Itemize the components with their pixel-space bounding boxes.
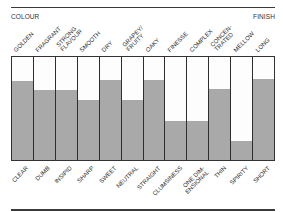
top-label: GOLDEN xyxy=(13,31,35,53)
top-label: COMPLEX xyxy=(189,28,214,53)
bar-column xyxy=(55,57,77,160)
bar-fill xyxy=(253,79,274,160)
bar-fill xyxy=(56,90,77,160)
bottom-label: SHORT xyxy=(252,165,271,184)
colour-header: COLOUR xyxy=(11,13,39,20)
bar-fill xyxy=(78,100,99,160)
bar-fill xyxy=(100,80,121,160)
bar-column xyxy=(186,57,208,160)
bottom-label: ONE DIM-ENSIONAL xyxy=(180,165,210,195)
bar-fill xyxy=(209,89,230,160)
bar-column xyxy=(99,57,121,160)
bar-fill xyxy=(122,100,143,160)
top-label: OAKY xyxy=(145,37,161,53)
bar-column xyxy=(11,57,33,160)
finish-header: FINISH xyxy=(253,13,275,20)
bottom-label: THIN xyxy=(213,165,227,179)
bar-column xyxy=(121,57,143,160)
bar-column xyxy=(230,57,252,160)
bar-fill xyxy=(187,121,208,160)
bar-column xyxy=(33,57,55,160)
bar-column xyxy=(143,57,165,160)
bar-column xyxy=(164,57,186,160)
bottom-label: SHARP xyxy=(76,165,95,184)
bottom-label: INSIPID xyxy=(54,165,74,185)
top-label: LONG xyxy=(255,37,271,53)
bottom-rule xyxy=(11,209,275,211)
top-rule xyxy=(11,7,275,8)
bar-fill xyxy=(12,81,33,160)
bottom-label: SWEET xyxy=(98,165,118,185)
top-label: DRY xyxy=(101,40,114,53)
top-label: FINESSE xyxy=(167,30,190,53)
bar-column xyxy=(208,57,230,160)
bottom-label: DUMB xyxy=(35,165,52,182)
bar-column xyxy=(252,57,274,160)
wine-profile-chart: COLOUR FINISH GOLDENCLEARFRAGRANTDUMBSTR… xyxy=(0,0,283,212)
bar-fill xyxy=(165,121,186,160)
bottom-label: CLEAR xyxy=(11,165,30,184)
bar-fill xyxy=(144,80,165,160)
bar-fill xyxy=(34,90,55,160)
bottom-label: SPIRITY xyxy=(228,165,249,186)
bar-fill xyxy=(231,141,252,160)
bar-grid xyxy=(11,56,275,161)
bar-column xyxy=(77,57,99,160)
